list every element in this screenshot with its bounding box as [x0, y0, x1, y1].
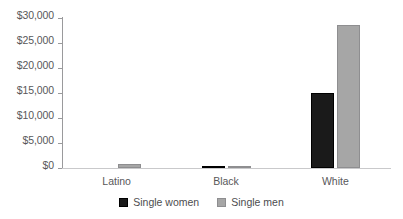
y-axis-tick-label: $5,000	[22, 135, 54, 146]
legend-label: Single women	[133, 196, 199, 208]
bar-white-single-men	[337, 25, 360, 168]
x-axis-label-black: Black	[186, 175, 266, 187]
legend-item-single-women[interactable]: Single women	[119, 196, 199, 208]
y-axis-tick-label: $10,000	[17, 110, 54, 121]
y-axis-tick-label: $15,000	[17, 85, 54, 96]
y-axis-tick-label: $25,000	[17, 35, 54, 46]
bar-white-single-women	[311, 93, 334, 168]
y-axis-tick-label: $20,000	[17, 60, 54, 71]
y-axis-tick-label: $30,000	[17, 10, 54, 21]
black-square-swatch	[119, 198, 128, 207]
bar-chart: $0$5,000$10,000$15,000$20,000$25,000$30,…	[0, 0, 403, 219]
legend-item-single-men[interactable]: Single men	[217, 196, 284, 208]
legend-label: Single men	[231, 196, 284, 208]
chart-legend: Single womenSingle men	[0, 196, 403, 208]
gray-square-swatch	[217, 198, 226, 207]
x-axis-label-white: White	[295, 175, 375, 187]
x-axis-line	[62, 168, 391, 169]
x-axis-label-latino: Latino	[77, 175, 157, 187]
plot-area	[62, 18, 390, 168]
y-axis-tick-label: $0	[43, 160, 54, 171]
